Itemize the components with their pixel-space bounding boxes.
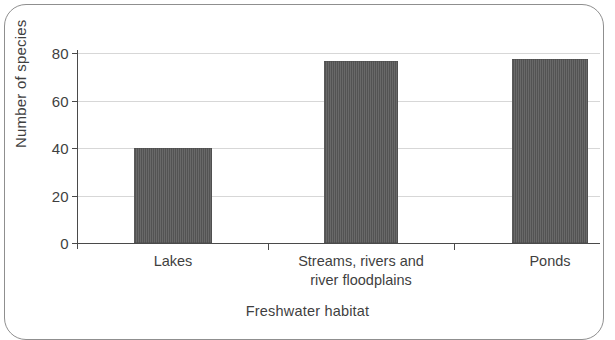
gridline-80 — [78, 53, 600, 54]
y-tick-0 — [72, 243, 78, 244]
x-tick-label-lakes: Lakes — [154, 252, 193, 271]
x-tick-label-streams-rivers-and-river-floodplains: Streams, rivers and river floodplains — [298, 252, 424, 290]
y-tick-label-40: 40 — [52, 140, 69, 157]
bar-ponds — [512, 59, 588, 243]
bar-lakes — [134, 148, 212, 243]
y-tick-label-20: 20 — [52, 187, 69, 204]
y-axis-title: Number of species — [12, 20, 29, 148]
x-tick-2 — [454, 243, 455, 250]
plot-area: 80 60 40 20 0 — [78, 53, 600, 243]
x-tick-label-ponds: Ponds — [529, 252, 570, 271]
y-tick-label-60: 60 — [52, 92, 69, 109]
x-axis-title: Freshwater habitat — [0, 303, 615, 319]
y-tick-20 — [72, 196, 78, 197]
x-tick-1 — [268, 243, 269, 250]
y-tick-40 — [72, 148, 78, 149]
y-tick-label-80: 80 — [52, 45, 69, 62]
y-tick-80 — [72, 53, 78, 54]
y-tick-label-0: 0 — [60, 235, 69, 252]
bar-streams-rivers-and-river-floodplains — [324, 61, 398, 243]
y-tick-60 — [72, 101, 78, 102]
